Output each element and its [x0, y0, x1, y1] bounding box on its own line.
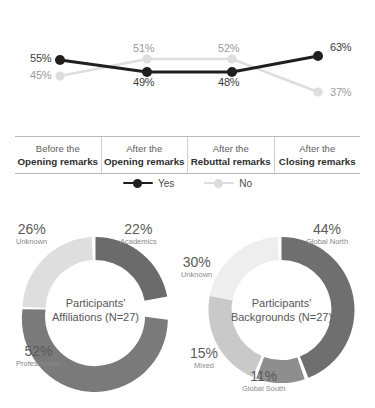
axis-category-4: After the Closing remarks	[275, 137, 361, 173]
donut-label-professionals-pct: 52%	[16, 344, 61, 359]
axis-category-1-line2: Opening remarks	[17, 155, 98, 168]
line-chart-plot	[0, 0, 375, 136]
axis-category-3: After the Rebuttal remarks	[188, 137, 275, 173]
donut-affiliations-title-line2: Affiliations (N=27)	[40, 310, 152, 324]
data-label-yes-4: 63%	[330, 41, 351, 53]
series-no-point	[227, 54, 236, 63]
donut-label-academics-name: Academics	[120, 237, 157, 247]
donut-label-unknown-pct: 26%	[16, 222, 47, 237]
donut-charts-row: Participants' Affiliations (N=27) 22% Ac…	[0, 196, 375, 408]
data-label-yes-1: 55%	[30, 52, 51, 64]
data-label-no-4: 37%	[330, 86, 351, 98]
donut-label-global-north: 44% Global North	[306, 222, 348, 247]
axis-category-1-line1: Before the	[36, 142, 80, 155]
donut-label-professionals: 52% Professionals	[16, 344, 61, 369]
data-label-yes-2: 49%	[133, 76, 154, 88]
data-label-no-2: 51%	[133, 42, 154, 54]
legend-marker-no-icon	[204, 178, 234, 188]
donut-label-global-north-name: Global North	[306, 237, 348, 247]
donut-label-global-south-pct: 11%	[242, 369, 285, 384]
donut-chart-backgrounds: Participants' Backgrounds (N=27) 44% Glo…	[188, 196, 375, 408]
donut-label-global-south: 11% Global South	[242, 369, 285, 394]
axis-category-3-line1: After the	[213, 142, 249, 155]
donut-label-academics: 22% Academics	[120, 222, 157, 247]
donut-label-unknown-name: Unknown	[16, 237, 47, 247]
series-no-point	[313, 87, 322, 96]
donut-label-mixed: 15% Mixed	[190, 346, 218, 371]
series-yes-point	[55, 55, 65, 65]
donut-backgrounds-center-title: Participants' Backgrounds (N=27)	[226, 296, 338, 324]
donut-label-professionals-name: Professionals	[16, 359, 61, 369]
legend-label-no: No	[239, 178, 252, 189]
series-no-point	[142, 54, 151, 63]
donut-affiliations-title-line1: Participants'	[40, 296, 152, 310]
line-chart: 55% 49% 48% 63% 45% 51% 52% 37%	[0, 0, 375, 136]
donut-label-mixed-pct: 15%	[190, 346, 218, 361]
axis-category-2-line2: Opening remarks	[104, 155, 185, 168]
axis-category-4-line2: Closing remarks	[279, 155, 356, 168]
data-label-no-3: 52%	[218, 42, 239, 54]
series-no-point	[55, 71, 64, 80]
axis-category-2: After the Opening remarks	[102, 137, 189, 173]
donut-label-academics-pct: 22%	[120, 222, 157, 237]
axis-category-1: Before the Opening remarks	[15, 137, 102, 173]
legend-item-yes[interactable]: Yes	[123, 178, 174, 189]
legend-label-yes: Yes	[158, 178, 174, 189]
donut-label-unknown: 26% Unknown	[16, 222, 47, 247]
category-axis: Before the Opening remarks After the Ope…	[15, 136, 360, 174]
donut-chart-affiliations: Participants' Affiliations (N=27) 22% Ac…	[2, 196, 189, 408]
donut-backgrounds-title-line1: Participants'	[226, 296, 338, 310]
donut-label-unknown-bg: 30% Unknown	[181, 255, 212, 280]
axis-category-2-line1: After the	[126, 142, 162, 155]
donut-label-global-south-name: Global South	[242, 384, 285, 394]
donut-segment-unknown-bg	[210, 237, 279, 300]
donut-backgrounds-title-line2: Backgrounds (N=27)	[226, 310, 338, 324]
donut-label-mixed-name: Mixed	[190, 361, 218, 371]
donut-label-unknown-bg-name: Unknown	[181, 270, 212, 280]
donut-label-global-north-pct: 44%	[306, 222, 348, 237]
legend-item-no[interactable]: No	[204, 178, 252, 189]
series-yes-point	[313, 51, 323, 61]
donut-affiliations-center-title: Participants' Affiliations (N=27)	[40, 296, 152, 324]
axis-category-4-line1: After the	[299, 142, 335, 155]
legend-marker-yes-icon	[123, 178, 153, 188]
chart-legend: Yes No	[0, 175, 375, 191]
data-label-yes-3: 48%	[218, 76, 239, 88]
donut-label-unknown-bg-pct: 30%	[181, 255, 212, 270]
axis-category-3-line2: Rebuttal remarks	[191, 155, 271, 168]
data-label-no-1: 45%	[30, 69, 51, 81]
